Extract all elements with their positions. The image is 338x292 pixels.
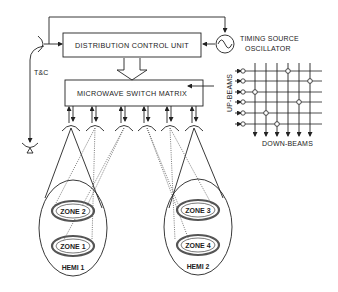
hemi-1-label: HEMI 1 [62,264,85,271]
tc-antenna-top-icon [38,36,43,52]
antenna-6 [185,106,203,131]
svg-text:ZONE 1: ZONE 1 [60,243,85,250]
up-beam-input-arrows [235,71,241,124]
antenna-1 [62,106,80,131]
zone-2: ZONE 2 [52,201,94,221]
hemi-1-coverage: ZONE 2 ZONE 1 HEMI 1 [39,180,107,276]
antenna-5 [161,106,179,131]
timing-feedback-line [49,17,225,44]
tc-label: T&C [34,69,49,76]
satellite-switching-diagram: DISTRIBUTION CONTROL UNIT T&C TIMING SOU… [0,0,338,292]
antenna-array [62,106,203,131]
tc-link-line [30,46,44,142]
svg-text:ZONE 4: ZONE 4 [185,242,210,249]
hemi-2-label: HEMI 2 [187,263,210,270]
zone-3: ZONE 3 [177,200,219,220]
antenna-3 [115,106,133,131]
antenna-2 [86,106,104,131]
antenna-4 [138,106,156,131]
distribution-control-unit-label: DISTRIBUTION CONTROL UNIT [75,41,189,50]
crosspoint-switches [253,69,313,127]
crossbar-matrix: UP-BEAMS DOWN-BEAMS [226,63,322,147]
oscillator-label-line1: TIMING SOURCE [240,35,299,42]
hemi-beams [45,128,223,208]
distribution-control-unit: DISTRIBUTION CONTROL UNIT [63,33,201,57]
zone-1: ZONE 1 [52,236,94,256]
switch-matrix-label: MICROWAVE SWITCH MATRIX [77,89,187,98]
dcu-to-matrix-hollow-arrow [117,58,147,80]
oscillator: TIMING SOURCE OSCILLATOR [203,35,299,53]
svg-text:ZONE 3: ZONE 3 [185,207,210,214]
down-beams-label: DOWN-BEAMS [262,140,313,147]
oscillator-label-line2: OSCILLATOR [245,45,291,52]
tc-ground-antenna-icon [22,143,38,153]
zone-4: ZONE 4 [177,235,219,255]
svg-text:ZONE 2: ZONE 2 [60,208,85,215]
microwave-switch-matrix: MICROWAVE SWITCH MATRIX [65,80,203,106]
up-beams-label: UP-BEAMS [226,74,233,112]
